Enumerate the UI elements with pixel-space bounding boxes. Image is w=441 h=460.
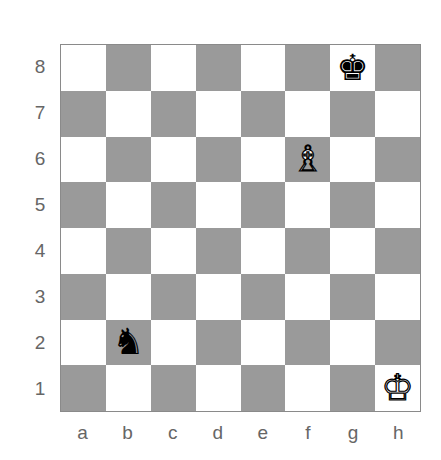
rank-label-4: 4 (30, 240, 50, 262)
black-knight-icon[interactable]: ♞ (112, 324, 144, 360)
rank-label-3: 3 (30, 286, 50, 308)
file-label-f: f (286, 422, 331, 444)
square-h3[interactable] (375, 274, 420, 320)
square-b3[interactable] (106, 274, 151, 320)
square-h8[interactable] (375, 45, 420, 91)
file-label-b: b (105, 422, 150, 444)
square-g5[interactable] (330, 182, 375, 228)
square-d8[interactable] (196, 45, 241, 91)
square-c7[interactable] (151, 91, 196, 137)
rank-label-6: 6 (30, 148, 50, 170)
square-f7[interactable] (285, 91, 330, 137)
rank-label-7: 7 (30, 102, 50, 124)
square-g4[interactable] (330, 228, 375, 274)
square-g3[interactable] (330, 274, 375, 320)
square-d6[interactable] (196, 137, 241, 183)
square-d2[interactable] (196, 320, 241, 366)
square-g1[interactable] (330, 365, 375, 411)
square-e7[interactable] (241, 91, 286, 137)
square-b8[interactable] (106, 45, 151, 91)
square-c4[interactable] (151, 228, 196, 274)
square-d7[interactable] (196, 91, 241, 137)
square-c2[interactable] (151, 320, 196, 366)
rank-label-5: 5 (30, 194, 50, 216)
square-a6[interactable] (61, 137, 106, 183)
square-g6[interactable] (330, 137, 375, 183)
square-f1[interactable] (285, 365, 330, 411)
square-h1[interactable]: ♔ (375, 365, 420, 411)
square-d3[interactable] (196, 274, 241, 320)
file-label-h: h (376, 422, 421, 444)
chess-board: ♚♗♞♔ (60, 44, 421, 412)
square-g2[interactable] (330, 320, 375, 366)
square-b2[interactable]: ♞ (106, 320, 151, 366)
white-bishop-icon[interactable]: ♗ (292, 141, 324, 177)
square-c5[interactable] (151, 182, 196, 228)
square-e5[interactable] (241, 182, 286, 228)
square-a7[interactable] (61, 91, 106, 137)
square-f6[interactable]: ♗ (285, 137, 330, 183)
file-label-e: e (240, 422, 285, 444)
file-label-a: a (60, 422, 105, 444)
square-a5[interactable] (61, 182, 106, 228)
square-f2[interactable] (285, 320, 330, 366)
square-h5[interactable] (375, 182, 420, 228)
file-label-c: c (150, 422, 195, 444)
square-e1[interactable] (241, 365, 286, 411)
square-d5[interactable] (196, 182, 241, 228)
square-e8[interactable] (241, 45, 286, 91)
square-e2[interactable] (241, 320, 286, 366)
square-h4[interactable] (375, 228, 420, 274)
square-c6[interactable] (151, 137, 196, 183)
square-b5[interactable] (106, 182, 151, 228)
square-f8[interactable] (285, 45, 330, 91)
square-a1[interactable] (61, 365, 106, 411)
white-king-icon[interactable]: ♔ (381, 370, 413, 406)
rank-label-1: 1 (30, 378, 50, 400)
square-a8[interactable] (61, 45, 106, 91)
square-f3[interactable] (285, 274, 330, 320)
rank-label-8: 8 (30, 56, 50, 78)
file-label-d: d (195, 422, 240, 444)
square-a4[interactable] (61, 228, 106, 274)
square-c1[interactable] (151, 365, 196, 411)
square-b6[interactable] (106, 137, 151, 183)
square-h2[interactable] (375, 320, 420, 366)
square-a3[interactable] (61, 274, 106, 320)
square-g7[interactable] (330, 91, 375, 137)
square-g8[interactable]: ♚ (330, 45, 375, 91)
square-h7[interactable] (375, 91, 420, 137)
square-d1[interactable] (196, 365, 241, 411)
square-f4[interactable] (285, 228, 330, 274)
square-b1[interactable] (106, 365, 151, 411)
square-e4[interactable] (241, 228, 286, 274)
black-king-icon[interactable]: ♚ (337, 50, 369, 86)
square-c8[interactable] (151, 45, 196, 91)
file-label-g: g (331, 422, 376, 444)
rank-label-2: 2 (30, 332, 50, 354)
square-c3[interactable] (151, 274, 196, 320)
square-e6[interactable] (241, 137, 286, 183)
square-b4[interactable] (106, 228, 151, 274)
square-e3[interactable] (241, 274, 286, 320)
square-h6[interactable] (375, 137, 420, 183)
square-d4[interactable] (196, 228, 241, 274)
square-f5[interactable] (285, 182, 330, 228)
square-b7[interactable] (106, 91, 151, 137)
square-a2[interactable] (61, 320, 106, 366)
